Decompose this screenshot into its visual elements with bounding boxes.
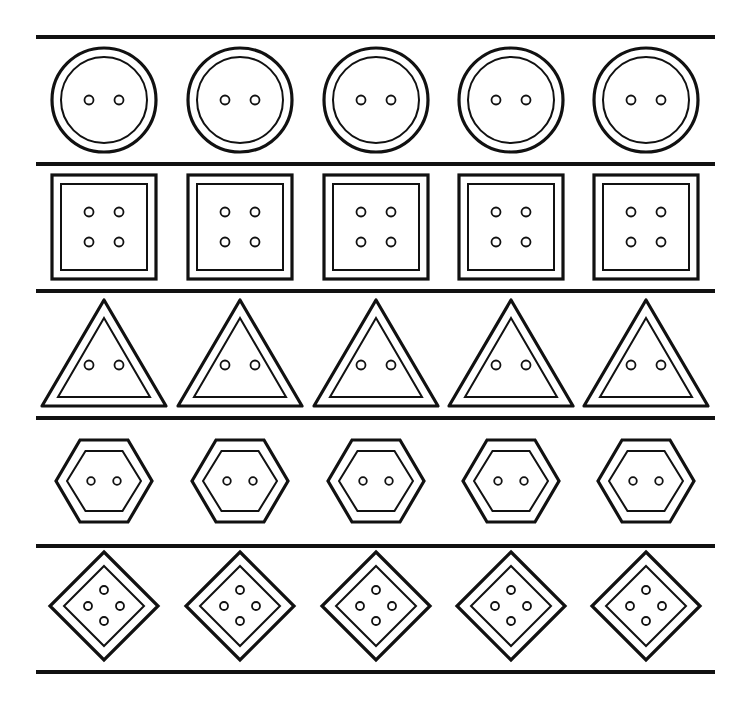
- diamond-button: [50, 552, 158, 660]
- outer-rim: [192, 440, 288, 522]
- outer-rim: [322, 552, 430, 660]
- button-hole: [627, 96, 636, 105]
- diamond-button: [592, 552, 700, 660]
- hexagon-button: [328, 440, 424, 522]
- button-hole: [387, 238, 396, 247]
- button-hole: [627, 208, 636, 217]
- button-hole: [113, 477, 121, 485]
- button-hole: [115, 238, 124, 247]
- button-hole: [115, 96, 124, 105]
- square-buttons: [52, 175, 698, 279]
- button-hole: [491, 602, 499, 610]
- button-hole: [655, 477, 663, 485]
- button-hole: [85, 96, 94, 105]
- triangle-button: [449, 300, 573, 406]
- button-hole: [492, 208, 501, 217]
- button-hole: [221, 96, 230, 105]
- button-hole: [522, 208, 531, 217]
- button-hole: [626, 602, 634, 610]
- outer-rim: [324, 48, 428, 152]
- hexagon-buttons: [56, 440, 694, 522]
- button-hole: [522, 96, 531, 105]
- button-hole: [84, 602, 92, 610]
- inner-rim: [203, 451, 277, 511]
- button-hole: [251, 208, 260, 217]
- button-hole: [642, 617, 650, 625]
- button-hole: [629, 477, 637, 485]
- triangle-button: [178, 300, 302, 406]
- diamond-button: [457, 552, 565, 660]
- button-hole: [223, 477, 231, 485]
- button-hole: [523, 602, 531, 610]
- outer-rim: [42, 300, 166, 406]
- button-hole: [100, 586, 108, 594]
- inner-rim: [603, 184, 689, 270]
- button-hole: [642, 586, 650, 594]
- button-hole: [359, 477, 367, 485]
- hexagon-button: [192, 440, 288, 522]
- button-hole: [220, 602, 228, 610]
- outer-rim: [594, 48, 698, 152]
- outer-rim: [314, 300, 438, 406]
- square-button: [52, 175, 156, 279]
- button-hole: [492, 238, 501, 247]
- circle-button: [324, 48, 428, 152]
- outer-rim: [592, 552, 700, 660]
- outer-rim: [178, 300, 302, 406]
- button-hole: [85, 208, 94, 217]
- button-hole: [385, 477, 393, 485]
- inner-rim: [474, 451, 548, 511]
- outer-rim: [457, 552, 565, 660]
- outer-rim: [459, 48, 563, 152]
- triangle-buttons: [42, 300, 708, 406]
- inner-rim: [468, 184, 554, 270]
- outer-rim: [584, 300, 708, 406]
- outer-rim: [459, 175, 563, 279]
- hexagon-button: [598, 440, 694, 522]
- button-hole: [249, 477, 257, 485]
- button-hole: [85, 238, 94, 247]
- circle-button: [52, 48, 156, 152]
- inner-rim: [603, 57, 689, 143]
- button-hole: [251, 361, 260, 370]
- circle-buttons: [52, 48, 698, 152]
- button-hole: [221, 208, 230, 217]
- button-hole: [658, 602, 666, 610]
- circle-button: [188, 48, 292, 152]
- outer-rim: [598, 440, 694, 522]
- button-hole: [357, 208, 366, 217]
- button-hole: [657, 361, 666, 370]
- hexagon-button: [463, 440, 559, 522]
- outer-rim: [463, 440, 559, 522]
- triangle-button: [584, 300, 708, 406]
- inner-rim: [197, 57, 283, 143]
- outer-rim: [188, 175, 292, 279]
- button-hole: [221, 238, 230, 247]
- button-hole: [657, 238, 666, 247]
- outer-rim: [328, 440, 424, 522]
- button-hole: [372, 617, 380, 625]
- square-button: [324, 175, 428, 279]
- button-hole: [251, 96, 260, 105]
- button-hole: [357, 96, 366, 105]
- button-hole: [657, 208, 666, 217]
- button-hole: [115, 208, 124, 217]
- button-hole: [627, 361, 636, 370]
- outer-rim: [324, 175, 428, 279]
- button-hole: [507, 617, 515, 625]
- button-hole: [522, 361, 531, 370]
- button-hole: [627, 238, 636, 247]
- outer-rim: [56, 440, 152, 522]
- outer-rim: [52, 175, 156, 279]
- button-hole: [252, 602, 260, 610]
- outer-rim: [52, 48, 156, 152]
- inner-rim: [67, 451, 141, 511]
- diamond-button: [322, 552, 430, 660]
- inner-rim: [333, 184, 419, 270]
- inner-rim: [609, 451, 683, 511]
- inner-rim: [468, 57, 554, 143]
- buttons-worksheet: [0, 0, 749, 705]
- button-hole: [251, 238, 260, 247]
- button-hole: [100, 617, 108, 625]
- triangle-button: [314, 300, 438, 406]
